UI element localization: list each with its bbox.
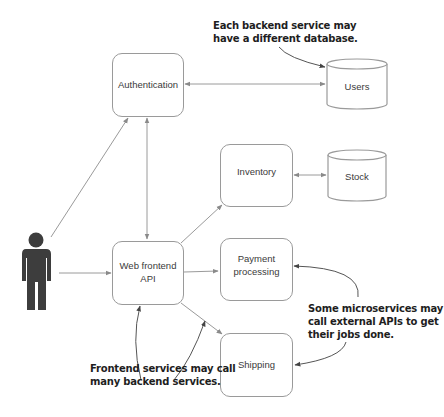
database-annotation: Each backend service may have a differen…	[213, 19, 358, 45]
web-frontend-label-line1: Web frontend	[120, 260, 177, 271]
external-api-annotation-line3: their jobs done.	[308, 328, 443, 341]
external-api-annotation: Some microservices may call external API…	[308, 302, 443, 341]
payment-label: Payment processing	[234, 253, 280, 279]
frontend-annotation-line1: Frontend services may call	[90, 362, 235, 375]
inventory-service-box[interactable]: Inventory	[220, 144, 293, 207]
external-api-annotation-line2: call external APIs to get	[308, 315, 443, 328]
stock-database-label: Stock	[328, 171, 386, 182]
user-figure-icon	[22, 233, 51, 311]
authentication-label: Authentication	[118, 79, 178, 92]
inventory-label: Inventory	[237, 166, 276, 179]
frontend-annotation-line2: many backend services.	[90, 375, 235, 388]
web-frontend-label: Web frontend API	[120, 260, 177, 286]
authentication-service-box[interactable]: Authentication	[112, 53, 184, 117]
payment-processing-box[interactable]: Payment processing	[220, 238, 293, 301]
external-api-annotation-line1: Some microservices may	[308, 302, 443, 315]
shipping-label: Shipping	[238, 359, 275, 372]
database-annotation-line1: Each backend service may	[213, 19, 358, 32]
users-database-label: Users	[327, 81, 387, 92]
frontend-annotation: Frontend services may call many backend …	[90, 362, 235, 388]
web-frontend-api-box[interactable]: Web frontend API	[112, 241, 184, 305]
database-annotation-line2: have a different database.	[213, 32, 358, 45]
web-frontend-label-line2: API	[140, 273, 155, 284]
payment-label-line2: processing	[234, 266, 280, 277]
payment-label-line1: Payment	[238, 253, 276, 264]
